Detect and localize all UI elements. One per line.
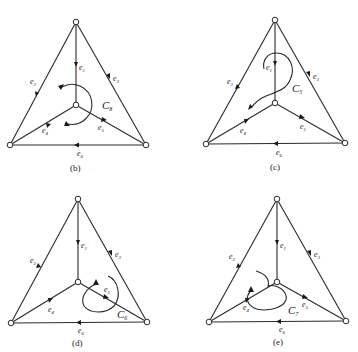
cycle-arrow-icon [248,104,253,110]
svg-text:e3: e3 [113,74,120,84]
svg-text:e5: e5 [300,122,307,132]
svg-text:C7: C7 [288,304,299,317]
node-center [73,102,79,108]
arrow-e6-icon [273,141,278,146]
svg-text:e5: e5 [104,285,111,295]
panel-d: e1 e2 e3 e4 e5 e6 C6 (d) [8,196,150,348]
svg-text:e4: e4 [240,126,247,136]
caption-d: (d) [72,338,83,348]
cycle-arrow-icon [93,279,99,285]
cycle-curve [251,53,292,108]
svg-text:e6: e6 [276,148,283,158]
panel-e: e1 e2 e3 e4 e5 e6 C7 (e) [206,196,349,347]
cycle-arrow-icon [64,121,70,126]
svg-text:e6: e6 [279,325,286,335]
svg-text:e1: e1 [280,241,286,251]
svg-text:e5: e5 [98,123,105,133]
svg-text:C8: C8 [102,99,112,112]
panel-b: e1 e2 e3 e4 e5 e6 C8 (b) [7,19,149,173]
svg-text:C5: C5 [292,82,302,95]
node-left [7,142,13,148]
svg-text:e1: e1 [79,63,85,73]
cycle-curve [83,276,119,312]
svg-text:e2: e2 [227,77,234,87]
edge-e3 [76,22,146,145]
arrow-e1-icon [76,240,80,245]
arrow-e6-icon [74,143,79,148]
svg-text:e2: e2 [229,252,236,262]
panel-c: e1 e2 e3 e4 e5 e6 C5 (c) [203,17,348,172]
svg-text:e3: e3 [314,250,321,260]
svg-text:e4: e4 [243,303,250,313]
arrow-e4-icon [244,119,249,124]
svg-text:e4: e4 [42,126,49,136]
arrow-e4-icon [48,298,53,303]
svg-text:e5: e5 [302,300,309,310]
arrow-e4-icon [46,123,51,128]
arrow-e5-icon [302,294,308,299]
svg-text:e1: e1 [81,241,87,251]
svg-text:e2: e2 [30,77,37,87]
cycle-arrow-icon [248,286,254,292]
svg-text:e6: e6 [77,149,84,159]
svg-text:e2: e2 [30,256,37,266]
arrow-e1-icon [74,62,78,67]
svg-text:e3: e3 [115,250,122,260]
arrow-e5-icon [299,114,305,119]
arrow-e6-icon [276,319,281,324]
graph-figure: e1 e2 e3 e4 e5 e6 C8 (b) e1 e2 e3 e4 e5 … [0,0,358,352]
node-top [73,19,79,25]
caption-c: (c) [270,162,280,172]
arrow-e1-icon [275,240,279,245]
caption-b: (b) [70,163,81,173]
svg-text:e3: e3 [313,72,320,82]
arrow-e6-icon [76,320,81,325]
caption-e: (e) [273,337,283,347]
arrow-e2-icon [36,263,41,268]
svg-text:e4: e4 [48,305,55,315]
svg-text:e1: e1 [266,63,272,73]
node-right [143,142,149,148]
arrow-e1-icon [273,61,277,66]
svg-text:e6: e6 [78,326,85,336]
